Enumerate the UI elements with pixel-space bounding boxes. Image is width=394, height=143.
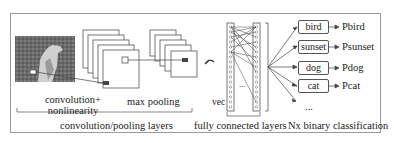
class-box-cat: cat xyxy=(298,79,329,93)
conv-label-line2: nonlinearity xyxy=(38,105,108,116)
prob-sunset: Psunset xyxy=(342,41,374,52)
vec-label: vec xyxy=(212,97,225,108)
conv-feature-maps xyxy=(83,30,139,88)
class-box-bird: bird xyxy=(298,20,329,34)
conv-label: convolution+ nonlinearity xyxy=(38,94,108,116)
fc-ellipsis: ... xyxy=(239,79,246,90)
group-conv-pool-label: convolution/pooling layers xyxy=(60,120,173,131)
group-classification-label: Nx binary classification xyxy=(288,120,388,131)
class-box-dog: dog xyxy=(298,61,329,75)
pool-label: max pooling xyxy=(127,96,180,107)
conv-label-line1: convolution+ xyxy=(38,94,108,105)
input-image xyxy=(15,36,75,82)
output-arrows xyxy=(268,27,297,102)
fc-connections xyxy=(231,27,256,102)
class-box-sunset: sunset xyxy=(298,40,329,54)
output-ellipsis: ... xyxy=(305,101,313,112)
prob-bird: Pbird xyxy=(342,21,365,32)
prob-cat: Pcat xyxy=(342,80,360,91)
prob-dog: Pdog xyxy=(342,62,364,73)
group-fc-label: fully connected layers xyxy=(194,120,287,131)
pool-feature-maps xyxy=(150,30,197,77)
